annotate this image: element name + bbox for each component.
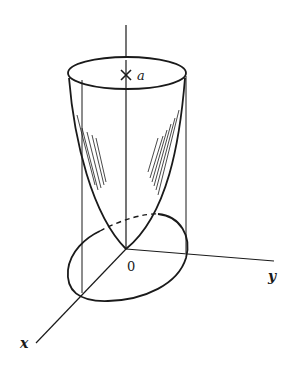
base-ellipse xyxy=(68,214,188,301)
label-x-axis: x xyxy=(19,335,29,351)
y-axis xyxy=(126,249,274,261)
label-a: a xyxy=(137,68,145,83)
x-axis xyxy=(36,249,126,343)
label-y-axis: y xyxy=(267,268,277,284)
label-origin: 0 xyxy=(127,259,135,274)
paraboloid-right-edge xyxy=(126,78,185,249)
paraboloid-diagram: a 0 y x xyxy=(0,0,296,371)
